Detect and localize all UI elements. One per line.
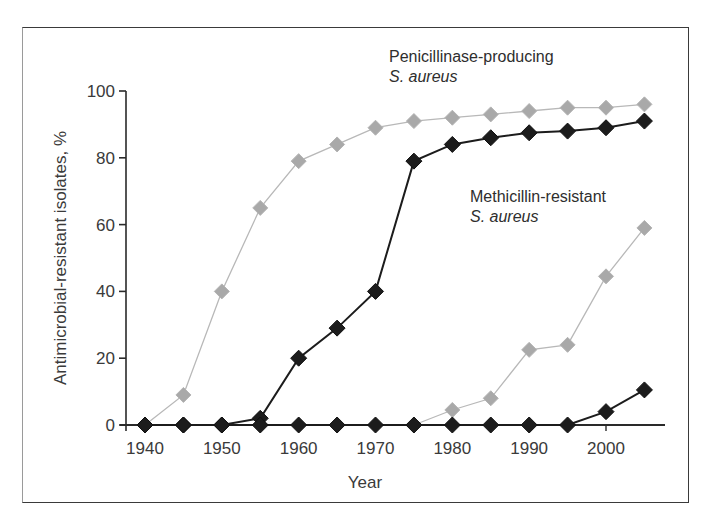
annotation-methicillin-line1: Methicillin-resistant (470, 188, 607, 205)
data-point (560, 337, 575, 352)
data-point (598, 404, 614, 420)
x-tick-label: 1960 (280, 439, 318, 458)
annotation-methicillin: Methicillin-resistant S. aureus (470, 188, 607, 225)
data-point (445, 110, 460, 125)
data-point (291, 154, 306, 169)
data-point (214, 284, 229, 299)
data-point (214, 417, 230, 433)
series-penicillinase-gray (138, 97, 652, 433)
series-line (145, 104, 644, 425)
series-line (414, 228, 645, 425)
series-line (145, 121, 644, 425)
data-point (560, 417, 576, 433)
data-point (599, 100, 614, 115)
y-tick-label: 0 (106, 416, 115, 435)
y-axis-title: Antimicrobial-resistant isolates, % (51, 131, 70, 385)
data-point (522, 342, 537, 357)
data-point (521, 125, 537, 141)
y-tick-label: 20 (96, 349, 115, 368)
data-point (175, 417, 191, 433)
y-tick-label: 80 (96, 149, 115, 168)
series-layer (137, 97, 652, 433)
data-point (637, 97, 652, 112)
y-tick-label: 60 (96, 216, 115, 235)
data-point (253, 200, 268, 215)
data-point (636, 382, 652, 398)
data-point (636, 113, 652, 129)
data-point (329, 417, 345, 433)
series-methicillin-black (137, 382, 652, 433)
series-penicillinase-black (137, 113, 652, 433)
data-point (483, 107, 498, 122)
line-chart: 0204060801001940195019601970198019902000… (0, 0, 716, 527)
data-point (176, 387, 191, 402)
y-tick-label: 40 (96, 282, 115, 301)
x-axis-title: Year (348, 473, 383, 492)
data-point (137, 417, 153, 433)
data-point (444, 136, 460, 152)
annotation-penicillinase-line1: Penicillinase-producing (389, 48, 554, 65)
x-tick-label: 2000 (587, 439, 625, 458)
data-point (560, 123, 576, 139)
data-point (599, 269, 614, 284)
data-point (445, 402, 460, 417)
x-tick-label: 1980 (433, 439, 471, 458)
x-tick-label: 1940 (126, 439, 164, 458)
data-point (483, 417, 499, 433)
data-point (444, 417, 460, 433)
data-point (522, 104, 537, 119)
series-methicillin-gray (406, 220, 652, 432)
annotation-methicillin-line2: S. aureus (470, 208, 538, 225)
data-point (368, 120, 383, 135)
annotation-penicillinase: Penicillinase-producing S. aureus (389, 48, 554, 85)
data-point (483, 391, 498, 406)
axes: 0204060801001940195019601970198019902000 (87, 82, 665, 458)
data-point (291, 417, 307, 433)
data-point (330, 137, 345, 152)
x-tick-label: 1970 (357, 439, 395, 458)
data-point (637, 220, 652, 235)
y-tick-label: 100 (87, 82, 115, 101)
data-point (406, 153, 422, 169)
annotation-penicillinase-line2: S. aureus (389, 68, 457, 85)
data-point (521, 417, 537, 433)
data-point (598, 120, 614, 136)
data-point (406, 417, 422, 433)
data-point (560, 100, 575, 115)
x-tick-label: 1950 (203, 439, 241, 458)
data-point (368, 417, 384, 433)
x-tick-label: 1990 (510, 439, 548, 458)
data-point (406, 114, 421, 129)
data-point (483, 130, 499, 146)
